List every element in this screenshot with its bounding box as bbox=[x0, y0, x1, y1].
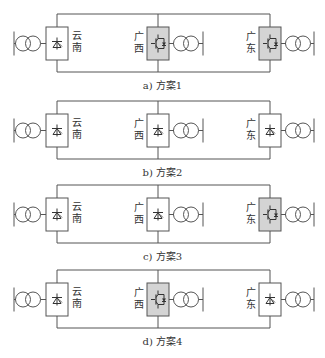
transformer-icon bbox=[286, 36, 311, 51]
dc-line-positive bbox=[57, 101, 270, 114]
transformer-icon bbox=[174, 292, 199, 307]
station-label-yunnan: 云南 bbox=[71, 286, 83, 310]
converter-station-guangxi bbox=[147, 114, 169, 147]
dc-line-negative bbox=[57, 147, 270, 159]
vsc-converter-box bbox=[259, 198, 281, 231]
scheme-diagram-1: 云南广西广东a) 方案1 bbox=[0, 0, 325, 88]
transformer-icon bbox=[286, 123, 311, 138]
station-label-guangdong: 广东 bbox=[245, 287, 257, 311]
transformer-icon bbox=[16, 123, 41, 138]
transformer-icon bbox=[16, 292, 41, 307]
transformer-icon bbox=[286, 207, 311, 222]
dc-line-negative bbox=[57, 231, 270, 243]
station-label-guangdong: 广东 bbox=[245, 118, 257, 142]
station-label-guangdong: 广东 bbox=[245, 31, 257, 55]
transformer-icon bbox=[286, 292, 311, 307]
station-label-yunnan: 云南 bbox=[71, 201, 83, 225]
station-label-guangdong: 广东 bbox=[245, 202, 257, 226]
converter-station-guangdong bbox=[259, 283, 281, 316]
converter-station-yunnan bbox=[46, 114, 68, 147]
vsc-converter-box bbox=[147, 283, 169, 316]
converter-station-yunnan bbox=[46, 27, 68, 60]
dc-line-positive bbox=[57, 14, 270, 27]
converter-station-guangdong bbox=[259, 114, 281, 147]
station-label-guangxi: 广西 bbox=[133, 31, 145, 55]
station-label-guangxi: 广西 bbox=[133, 287, 145, 311]
transformer-icon bbox=[174, 207, 199, 222]
dc-line-negative bbox=[57, 60, 270, 72]
dc-line-positive bbox=[57, 270, 270, 283]
transformer-icon bbox=[174, 36, 199, 51]
station-label-yunnan: 云南 bbox=[71, 117, 83, 141]
converter-station-guangxi bbox=[147, 283, 169, 316]
vsc-converter-box bbox=[147, 27, 169, 60]
converter-station-guangxi bbox=[147, 198, 169, 231]
dc-line-negative bbox=[57, 316, 270, 328]
transformer-icon bbox=[174, 123, 199, 138]
dc-line-positive bbox=[57, 185, 270, 198]
converter-station-yunnan bbox=[46, 198, 68, 231]
converter-station-guangxi bbox=[147, 27, 169, 60]
station-label-yunnan: 云南 bbox=[71, 30, 83, 54]
vsc-converter-box bbox=[259, 27, 281, 60]
transformer-icon bbox=[16, 207, 41, 222]
converter-station-yunnan bbox=[46, 283, 68, 316]
station-label-guangxi: 广西 bbox=[133, 118, 145, 142]
scheme-diagram-3: 云南广西广东c) 方案3 bbox=[0, 171, 325, 259]
converter-station-guangdong bbox=[259, 27, 281, 60]
scheme-diagram-4: 云南广西广东d) 方案4 bbox=[0, 256, 325, 344]
scheme-diagram-2: 云南广西广东b) 方案2 bbox=[0, 87, 325, 175]
station-label-guangxi: 广西 bbox=[133, 202, 145, 226]
scheme-caption: d) 方案4 bbox=[0, 333, 325, 348]
converter-station-guangdong bbox=[259, 198, 281, 231]
transformer-icon bbox=[16, 36, 41, 51]
